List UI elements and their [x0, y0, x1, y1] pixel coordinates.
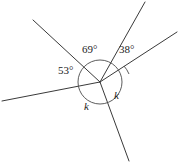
angle-diagram: 69° 38° 53° k k	[0, 0, 184, 166]
angle-label-69: 69°	[82, 44, 97, 55]
angle-label-k-bottom: k	[84, 101, 89, 112]
angle-label-38: 38°	[119, 44, 134, 55]
angle-label-53: 53°	[58, 65, 73, 76]
ray-upper-right-shallow	[100, 32, 177, 82]
angle-arc-38	[124, 66, 129, 74]
ray-upper-right-steep	[100, 2, 145, 82]
angle-diagram-canvas	[0, 0, 184, 166]
angle-label-k-right: k	[114, 90, 119, 101]
